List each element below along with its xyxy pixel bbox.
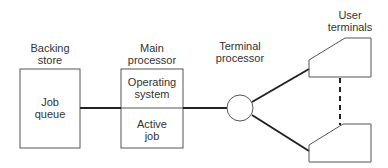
label-line: store xyxy=(20,54,80,66)
label-line: User xyxy=(320,9,380,21)
upper-user-terminal xyxy=(309,38,371,77)
lower-terminal-link xyxy=(252,115,309,151)
label-line: Active xyxy=(121,118,183,130)
label-line: Terminal xyxy=(210,40,270,52)
label-line: Operating xyxy=(121,76,183,88)
active-job-label: Active job xyxy=(121,118,183,142)
label-line: processor xyxy=(210,52,270,64)
backing-store-title: Backing store xyxy=(20,42,80,66)
operating-system-label: Operating system xyxy=(121,76,183,100)
label-line: Main xyxy=(121,42,183,54)
label-line: Job xyxy=(20,96,80,108)
terminal-processor-title: Terminal processor xyxy=(210,40,270,64)
label-line: Backing xyxy=(20,42,80,54)
main-processor-title: Main processor xyxy=(121,42,183,66)
label-line: processor xyxy=(121,54,183,66)
label-line: system xyxy=(121,88,183,100)
terminal-processor-node xyxy=(227,95,253,121)
label-line: queue xyxy=(20,108,80,120)
label-line: terminals xyxy=(320,21,380,33)
label-line: job xyxy=(121,130,183,142)
lower-user-terminal xyxy=(309,124,371,162)
job-queue-label: Job queue xyxy=(20,96,80,120)
user-terminals-title: User terminals xyxy=(320,9,380,33)
upper-terminal-link xyxy=(252,69,309,102)
